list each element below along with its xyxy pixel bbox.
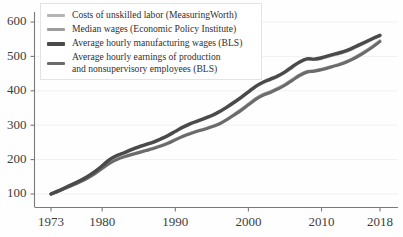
legend-item[interactable]: Average hourly manufacturing wages (BLS)	[47, 37, 255, 49]
legend-item-label: Average hourly earnings of production an…	[72, 51, 220, 74]
x-tick-label: 1973	[38, 214, 64, 229]
x-tick-label: 2000	[235, 214, 261, 229]
x-tick-group	[51, 208, 380, 212]
legend-color-swatch	[47, 62, 65, 65]
legend-item-label: Costs of unskilled labor (MeasuringWorth…	[72, 9, 237, 21]
y-tick-group	[31, 22, 35, 194]
x-tick-label: 1990	[162, 214, 188, 229]
legend-item[interactable]: Average hourly earnings of production an…	[47, 51, 255, 74]
line-chart: 100200300400500600 197319801990200020102…	[0, 0, 403, 237]
x-tick-label: 2018	[367, 214, 393, 229]
y-tick-label: 500	[7, 48, 27, 63]
y-tick-labels: 100200300400500600	[7, 13, 27, 200]
legend-item-label: Average hourly manufacturing wages (BLS)	[72, 37, 242, 49]
legend-color-swatch	[47, 28, 65, 31]
y-tick-label: 600	[7, 13, 27, 28]
legend-item-label: Median wages (Economic Policy Institute)	[72, 23, 236, 35]
y-tick-label: 300	[7, 117, 27, 132]
legend-color-swatch	[47, 14, 65, 17]
chart-legend: Costs of unskilled labor (MeasuringWorth…	[40, 3, 262, 80]
legend-item[interactable]: Costs of unskilled labor (MeasuringWorth…	[47, 9, 255, 21]
x-tick-label: 2010	[309, 214, 335, 229]
y-tick-label: 100	[7, 185, 27, 200]
legend-color-swatch	[47, 42, 65, 46]
x-tick-label: 1980	[89, 214, 115, 229]
legend-item[interactable]: Median wages (Economic Policy Institute)	[47, 23, 255, 35]
x-tick-labels: 197319801990200020102018	[38, 214, 393, 229]
y-tick-label: 200	[7, 151, 27, 166]
y-tick-label: 400	[7, 82, 27, 97]
